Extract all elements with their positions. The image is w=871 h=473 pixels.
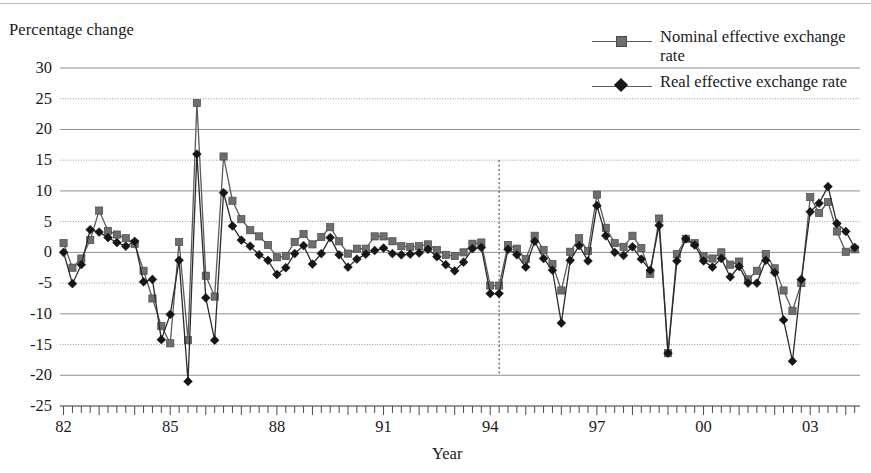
data-point-marker: [167, 340, 174, 347]
data-point-marker: [68, 279, 77, 288]
x-tick-label: 94: [482, 419, 499, 436]
data-point-marker: [229, 197, 236, 204]
chart-legend: Nominal effective exchange rate Real eff…: [592, 27, 867, 103]
data-point-marker: [336, 238, 343, 245]
data-point-marker: [486, 289, 495, 298]
data-point-marker: [335, 250, 344, 259]
data-point-marker: [300, 230, 307, 237]
data-point-marker: [788, 357, 797, 366]
data-point-marker: [122, 235, 129, 242]
data-point-marker: [807, 193, 814, 200]
data-point-marker: [113, 231, 120, 238]
data-point-marker: [238, 216, 245, 223]
x-tick-label: 85: [162, 419, 179, 436]
data-point-marker: [121, 242, 130, 251]
data-point-marker: [326, 233, 335, 242]
data-point-marker: [148, 275, 157, 284]
x-tick-label: 88: [269, 419, 286, 436]
data-point-marker: [816, 209, 823, 216]
data-point-marker: [638, 244, 645, 251]
data-point-marker: [327, 224, 334, 231]
data-point-marker: [557, 319, 566, 328]
legend-item-real[interactable]: Real effective exchange rate: [592, 72, 867, 97]
data-point-marker: [442, 251, 449, 258]
data-point-marker: [388, 249, 397, 258]
legend-key-diamond-icon: [592, 77, 652, 97]
data-point-marker: [842, 248, 849, 255]
data-point-marker: [752, 279, 761, 288]
data-point-marker: [824, 182, 833, 191]
data-point-marker: [780, 287, 787, 294]
data-point-marker: [210, 336, 219, 345]
data-point-marker: [620, 243, 627, 250]
data-point-marker: [86, 225, 95, 234]
data-point-marker: [96, 207, 103, 214]
data-point-marker: [264, 256, 273, 265]
data-point-marker: [273, 254, 280, 261]
data-point-marker: [610, 248, 619, 257]
data-point-marker: [59, 248, 68, 257]
data-point-marker: [237, 236, 246, 245]
data-point-marker: [833, 228, 840, 235]
series-line: [64, 103, 855, 353]
data-point-marker: [380, 233, 387, 240]
legend-label-real: Real effective exchange rate: [652, 72, 847, 91]
data-point-marker: [451, 252, 458, 259]
gridlines: [60, 68, 860, 406]
x-tick-label: 00: [695, 419, 712, 436]
data-point-marker: [95, 228, 104, 237]
data-point-marker: [567, 248, 574, 255]
data-point-marker: [201, 293, 210, 302]
data-point-marker: [202, 272, 209, 279]
data-point-marker: [60, 240, 67, 247]
data-point-marker: [495, 289, 504, 298]
data-point-marker: [592, 201, 601, 210]
data-point-marker: [175, 256, 184, 265]
x-axis: [60, 406, 860, 415]
data-point-marker: [398, 243, 405, 250]
x-tick-label: 97: [589, 419, 606, 436]
data-point-marker: [558, 287, 565, 294]
data-point-marker: [576, 235, 583, 242]
data-series-layer: [59, 99, 859, 385]
data-point-marker: [69, 264, 76, 271]
data-point-marker: [389, 238, 396, 245]
data-point-marker: [318, 233, 325, 240]
data-point-marker: [611, 240, 618, 247]
x-tick-label: 82: [55, 419, 72, 436]
data-point-marker: [264, 241, 271, 248]
data-point-marker: [727, 261, 734, 268]
x-tick-label: 91: [375, 419, 392, 436]
legend-item-nominal[interactable]: Nominal effective exchange rate: [592, 27, 867, 66]
data-point-marker: [406, 250, 415, 259]
data-point-marker: [370, 246, 379, 255]
data-point-marker: [397, 250, 406, 259]
data-point-marker: [753, 267, 760, 274]
data-point-marker: [309, 241, 316, 248]
data-point-marker: [407, 243, 414, 250]
data-point-marker: [709, 255, 716, 262]
data-point-marker: [379, 244, 388, 253]
data-point-marker: [247, 227, 254, 234]
chart-container: Percentage change 302520151050-5-10-15-2…: [0, 0, 871, 473]
data-point-marker: [282, 252, 289, 259]
data-point-marker: [593, 191, 600, 198]
data-point-marker: [220, 153, 227, 160]
legend-key-square-icon: [592, 32, 652, 52]
data-point-marker: [193, 99, 200, 106]
data-point-marker: [521, 263, 530, 272]
data-point-marker: [371, 233, 378, 240]
data-point-marker: [291, 238, 298, 245]
data-point-marker: [584, 257, 593, 266]
data-point-marker: [228, 222, 237, 231]
data-point-marker: [629, 232, 636, 239]
data-point-marker: [344, 250, 351, 257]
data-point-marker: [256, 233, 263, 240]
data-point-marker: [779, 316, 788, 325]
data-point-marker: [157, 335, 166, 344]
data-point-marker: [112, 238, 121, 247]
data-point-marker: [460, 249, 467, 256]
data-point-marker: [184, 377, 193, 386]
x-tick-label: 03: [802, 419, 819, 436]
data-point-marker: [789, 307, 796, 314]
